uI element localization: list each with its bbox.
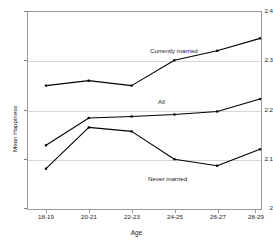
data-point [131,85,133,87]
data-point [173,158,175,160]
data-point [45,144,47,146]
data-point [45,168,47,170]
annotation-never-married: Never married [148,176,187,182]
x-tick-label-28-29: 28-29 [236,214,273,220]
data-point [216,50,218,52]
x-tick-label-22-23: 22-23 [112,214,152,220]
data-point [45,85,47,87]
x-axis-title: Age [0,229,273,236]
data-point [131,115,133,117]
data-point [259,98,261,100]
x-tick-label-24-25: 24-25 [155,214,195,220]
data-point [259,148,261,150]
y-axis-title: Mean Happiness [11,106,18,152]
series-line-2 [46,127,260,168]
data-point [216,165,218,167]
annotation-all: All [158,99,165,105]
annotation-currently-married: Currently married [150,48,198,54]
series-line-0 [46,38,260,85]
data-point [88,126,90,128]
x-tick-label-20-21: 20-21 [69,214,109,220]
x-tick-label-26-27: 26-27 [198,214,238,220]
line-chart: 2.4 2.3 2.2 2.1 2 Mean Happiness 18-19 2… [0,0,273,246]
data-point [259,37,261,39]
data-point [173,59,175,61]
series-layer [27,11,262,210]
data-point [131,130,133,132]
data-point [88,117,90,119]
data-point [173,113,175,115]
data-point [216,110,218,112]
data-point [88,80,90,82]
x-tick-label-18-19: 18-19 [26,214,66,220]
